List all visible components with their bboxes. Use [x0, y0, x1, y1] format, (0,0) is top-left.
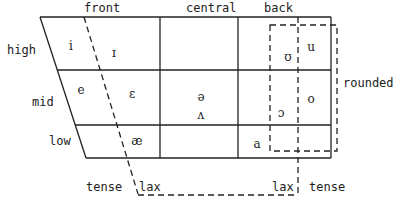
- vowel-u: u: [307, 41, 315, 53]
- lax-label-back: lax: [272, 181, 294, 193]
- tense-label-back: tense: [309, 181, 345, 193]
- column-label-front: front: [84, 2, 120, 14]
- vowel-schwa: ə: [197, 91, 204, 103]
- vowel-open-o: ɔ: [278, 107, 285, 119]
- vowel-chart: front central back high mid low rounded …: [0, 0, 400, 200]
- vowel-e: e: [77, 84, 84, 96]
- vowel-i: i: [69, 40, 73, 52]
- row-label-high: high: [7, 44, 36, 56]
- tense-label-front: tense: [86, 181, 122, 193]
- rounded-region-box: [270, 25, 337, 151]
- vowel-epsilon: ɛ: [129, 88, 135, 100]
- rounded-label: rounded: [343, 77, 394, 89]
- vowel-upsilon: ʊ: [284, 51, 291, 63]
- column-label-back: back: [264, 2, 293, 14]
- vowel-a: a: [253, 138, 260, 150]
- vowel-small-cap-i: ɪ: [112, 47, 116, 59]
- row-label-mid: mid: [32, 96, 54, 108]
- column-label-central: central: [186, 2, 237, 14]
- row-label-low: low: [49, 135, 71, 147]
- vowel-wedge: ʌ: [198, 109, 205, 121]
- lax-label-front: lax: [139, 181, 161, 193]
- front-tense-lax-divider: [84, 17, 138, 194]
- vowel-ash: æ: [131, 135, 142, 147]
- vowel-o: o: [307, 93, 314, 105]
